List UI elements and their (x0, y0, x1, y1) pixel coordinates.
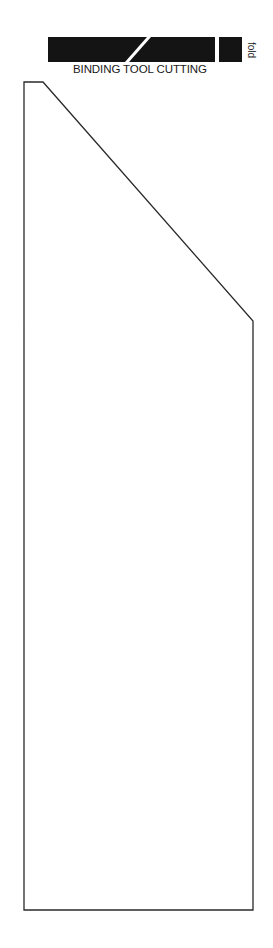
binding-tool-diagram: fold BINDING TOOL CUTTING (0, 0, 273, 948)
cut-outline-shape (0, 0, 273, 948)
cut-outline-path (24, 82, 253, 910)
